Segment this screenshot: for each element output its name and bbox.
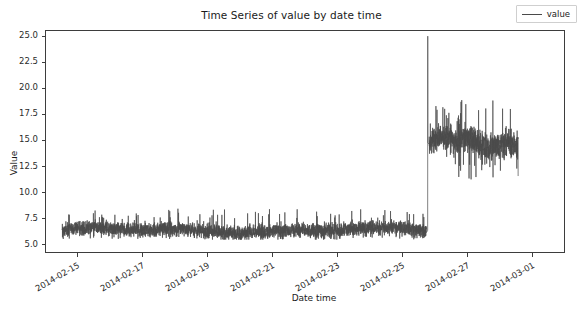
chart-legend[interactable]: value — [516, 5, 577, 23]
y-tick-label: 17.5 — [19, 108, 38, 118]
y-tick-label: 20.0 — [19, 82, 38, 92]
legend-label-value: value — [547, 9, 570, 19]
x-tick-mark — [77, 253, 78, 257]
x-tick-mark — [337, 253, 338, 257]
y-axis-label: Value — [9, 133, 19, 193]
x-axis: Date time 2014-02-152014-02-172014-02-19… — [0, 253, 583, 314]
y-axis: Value 5.07.510.012.515.017.520.022.525.0 — [0, 30, 45, 254]
y-tick-label: 25.0 — [19, 30, 38, 40]
legend-line-icon — [522, 14, 542, 15]
y-tick-label: 22.5 — [19, 56, 38, 66]
matplotlib-figure: Time Series of value by date time Value … — [0, 0, 583, 314]
value-series-line — [46, 31, 564, 252]
y-tick-label: 5.0 — [24, 239, 38, 249]
x-tick-mark — [402, 253, 403, 257]
plot-area — [45, 30, 565, 253]
y-tick-label: 10.0 — [19, 187, 38, 197]
chart-title: Time Series of value by date time — [0, 9, 583, 21]
x-tick-mark — [142, 253, 143, 257]
y-tick-label: 12.5 — [19, 161, 38, 171]
series-path-value — [62, 36, 518, 239]
x-tick-mark — [467, 253, 468, 257]
x-tick-mark — [207, 253, 208, 257]
y-tick-label: 7.5 — [24, 213, 38, 223]
x-tick-mark — [532, 253, 533, 257]
y-tick-label: 15.0 — [19, 134, 38, 144]
x-tick-mark — [272, 253, 273, 257]
